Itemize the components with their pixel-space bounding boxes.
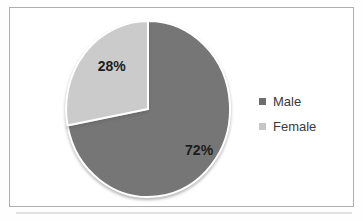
data-label-female: 28% <box>98 58 127 74</box>
legend-marker-male-icon <box>259 98 266 105</box>
legend-item-female: Female <box>259 114 316 139</box>
scan-artifact-line <box>16 212 352 214</box>
legend-label-female: Female <box>273 120 316 133</box>
legend-marker-female-icon <box>259 123 266 130</box>
legend-item-male: Male <box>259 89 316 114</box>
legend: Male Female <box>259 89 316 139</box>
legend-label-male: Male <box>273 95 301 108</box>
data-label-male: 72% <box>185 142 214 158</box>
chart-image: 72%28% Male Female <box>0 0 363 221</box>
